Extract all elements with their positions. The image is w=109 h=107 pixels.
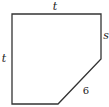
pentagon-diagram: t t s 6 bbox=[0, 0, 109, 107]
left-side-label: t bbox=[2, 52, 7, 65]
top-side-label: t bbox=[53, 0, 58, 13]
right-side-label: s bbox=[103, 29, 109, 42]
diagonal-side-label: 6 bbox=[83, 85, 89, 96]
